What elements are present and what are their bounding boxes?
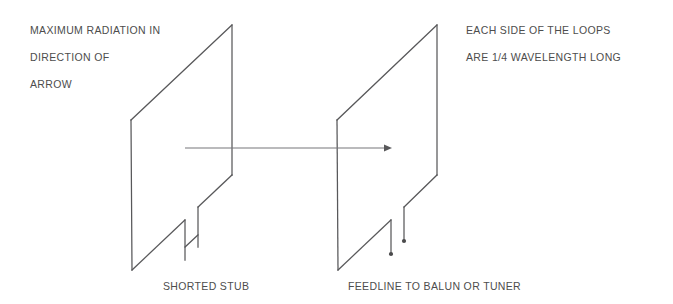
reflector-loop-top-edge: [131, 25, 232, 120]
direction-arrow-head: [384, 144, 392, 151]
antenna-diagram-svg: MAXIMUM RADIATION IN DIRECTION OF ARROW …: [0, 0, 673, 304]
reflector-loop-bottom-edge-left: [132, 220, 185, 270]
loop-side-length-line-1: EACH SIDE OF THE LOOPS: [466, 24, 611, 36]
feedline-label: FEEDLINE TO BALUN OR TUNER: [348, 280, 521, 292]
driven-loop-bottom-edge-right: [404, 175, 437, 207]
annotation-top-left: MAXIMUM RADIATION IN DIRECTION OF ARROW: [30, 24, 160, 90]
shorted-stub-short-bar: [185, 235, 198, 247]
max-radiation-line-1: MAXIMUM RADIATION IN: [30, 24, 160, 36]
feedline-left-terminal-dot: [389, 252, 393, 256]
shorted-stub-label: SHORTED STUB: [163, 280, 249, 292]
driven-loop-top-edge: [337, 25, 437, 120]
reflector-loop-bottom-edge-right: [198, 175, 232, 207]
diagram-canvas: MAXIMUM RADIATION IN DIRECTION OF ARROW …: [0, 0, 673, 304]
feedline-right-terminal-dot: [402, 239, 406, 243]
reflector-loop-left-edge: [131, 120, 132, 270]
driven-loop-left-edge: [337, 120, 338, 270]
annotation-top-right: EACH SIDE OF THE LOOPS ARE 1/4 WAVELENGT…: [466, 24, 621, 63]
loop-side-length-line-2: ARE 1/4 WAVELENGTH LONG: [466, 51, 621, 63]
direction-arrow: [185, 144, 392, 151]
max-radiation-line-2: DIRECTION OF: [30, 51, 109, 63]
max-radiation-line-3: ARROW: [30, 78, 72, 90]
driven-loop-bottom-edge-left: [338, 220, 391, 270]
